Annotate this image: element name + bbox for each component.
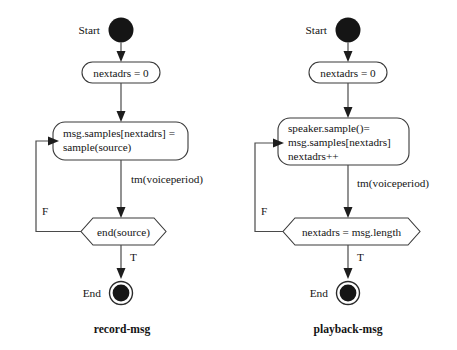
action-text-record-line1: msg.samples[nextadrs] = xyxy=(63,127,175,139)
arrowhead-action1-record xyxy=(117,51,126,62)
action-text-nextadrs-init-record: nextadrs = 0 xyxy=(93,67,149,79)
arrowhead-end-playback xyxy=(344,268,353,279)
end-node-core-playback xyxy=(340,285,357,302)
start-node-record xyxy=(109,18,134,43)
activity-diagram-figure: Start nextadrs = 0 msg.samples[nextadrs]… xyxy=(0,0,457,350)
action-text-nextadrs-init-playback: nextadrs = 0 xyxy=(320,67,376,79)
end-label-playback: End xyxy=(310,287,329,299)
start-label-playback: Start xyxy=(305,24,327,36)
end-label-record: End xyxy=(83,287,102,299)
action-text-playback-line2: msg.samples[nextadrs] xyxy=(288,136,391,148)
diagram-playback-msg: Start nextadrs = 0 speaker.sample()= msg… xyxy=(255,18,429,337)
diagram-canvas: Start nextadrs = 0 msg.samples[nextadrs]… xyxy=(0,0,457,350)
decision-text-end-source: end(source) xyxy=(97,226,150,239)
start-label-record: Start xyxy=(78,24,100,36)
action-text-record-line2: sample(source) xyxy=(63,141,132,154)
branch-label-true-playback: T xyxy=(357,251,364,263)
action-text-playback-line3: nextadrs++ xyxy=(288,150,339,162)
arrowhead-decision-playback xyxy=(344,207,353,218)
end-node-core-record xyxy=(113,285,130,302)
arrowhead-action1-playback xyxy=(344,51,353,62)
arrowhead-action2-playback xyxy=(344,107,353,118)
caption-record-msg: record-msg xyxy=(94,323,151,336)
branch-label-true-record: T xyxy=(130,251,137,263)
arrowhead-decision-record xyxy=(117,207,126,218)
branch-label-false-record: F xyxy=(42,205,48,217)
arrowhead-end-record xyxy=(117,268,126,279)
decision-text-nextadrs-length: nextadrs = msg.length xyxy=(302,226,402,238)
branch-label-false-playback: F xyxy=(261,205,267,217)
diagram-record-msg: Start nextadrs = 0 msg.samples[nextadrs]… xyxy=(36,18,203,337)
arrowhead-action2-record xyxy=(117,111,126,122)
action-text-playback-line1: speaker.sample()= xyxy=(288,122,370,135)
edge-label-tm-voiceperiod-playback: tm(voiceperiod) xyxy=(357,177,429,190)
start-node-playback xyxy=(336,18,361,43)
caption-playback-msg: playback-msg xyxy=(314,323,383,336)
edge-label-tm-voiceperiod-record: tm(voiceperiod) xyxy=(131,173,203,186)
